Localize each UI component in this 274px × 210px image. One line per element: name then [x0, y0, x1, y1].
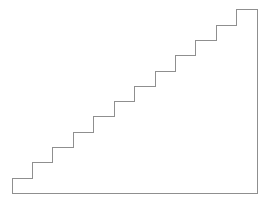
drawing-canvas: [0, 0, 274, 210]
staircase-figure: [0, 0, 274, 210]
canvas-background: [0, 0, 274, 210]
